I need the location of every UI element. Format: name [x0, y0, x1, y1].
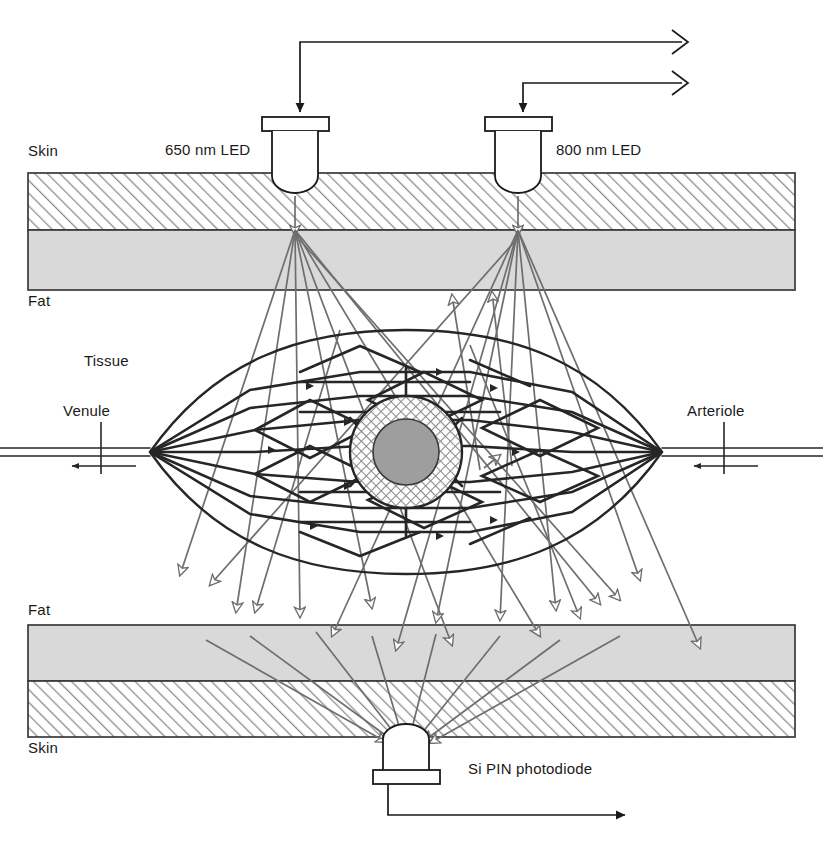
fat-layer-bottom [28, 625, 795, 681]
label-fat-top: Fat [28, 293, 50, 308]
wire-led-800 [523, 83, 682, 112]
skin-layer-top [28, 173, 795, 230]
arteriole-trunk [662, 448, 823, 456]
fat-layer-top [28, 230, 795, 290]
label-arteriole: Arteriole [687, 403, 745, 418]
wire-photodiode-output [388, 784, 625, 815]
pulse-oximetry-diagram [0, 0, 823, 848]
label-led-650: 650 nm LED [165, 142, 250, 157]
label-led-800: 800 nm LED [556, 142, 641, 157]
signal-wiring [388, 784, 625, 815]
venule-trunk [0, 448, 150, 456]
label-photodiode: Si PIN photodiode [468, 761, 592, 776]
figure-canvas: Skin 650 nm LED 800 nm LED Fat Tissue Ve… [0, 0, 823, 848]
drive-wiring [300, 30, 688, 112]
label-tissue: Tissue [84, 353, 129, 368]
capillary-cross-section [350, 396, 462, 508]
label-skin-bottom: Skin [28, 740, 58, 755]
label-venule: Venule [63, 403, 110, 418]
label-fat-bottom: Fat [28, 602, 50, 617]
wire-led-650 [300, 42, 682, 112]
label-skin-top: Skin [28, 143, 58, 158]
